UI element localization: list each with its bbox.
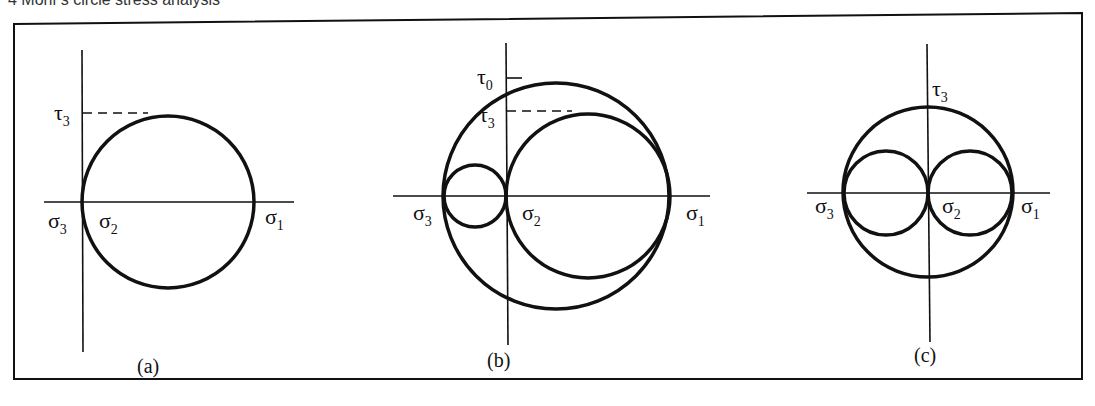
label-tau3-c: τ3 [932,76,948,105]
caption-a: (a) [137,355,159,378]
caption-b: (b) [487,349,510,372]
panel-a: τ3 σ3 σ2 σ1 (a) [44,50,294,378]
panel-b: τ0 τ3 σ3 σ2 σ1 (b) [393,43,710,372]
label-sigma1-a: σ1 [265,204,284,233]
caption-c: (c) [914,344,936,367]
label-sigma2-c: σ2 [942,193,961,222]
mohr-circle-figure: τ3 σ3 σ2 σ1 (a) τ0 τ3 σ3 σ2 σ1 (b) τ3 σ3… [0,0,1095,406]
label-sigma3-c: σ3 [815,193,834,222]
label-sigma2-a: σ2 [99,208,118,237]
label-sigma3-a: σ3 [48,208,67,237]
label-sigma3-b: σ3 [413,200,432,229]
label-sigma2-b: σ2 [522,200,541,229]
label-sigma1-b: σ1 [686,200,705,229]
label-tau3-a: τ3 [54,100,70,129]
label-tau0-b: τ0 [477,64,493,93]
label-tau3-b: τ3 [479,102,495,131]
label-sigma1-c: σ1 [1021,193,1040,222]
panel-c: τ3 σ3 σ2 σ1 (c) [807,44,1050,367]
